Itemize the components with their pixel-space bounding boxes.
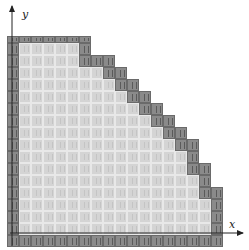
x-axis-label: x — [229, 218, 235, 231]
y-axis-label: y — [22, 8, 28, 21]
quarter-disc-diagram: y x — [0, 0, 249, 250]
axes — [0, 0, 249, 250]
